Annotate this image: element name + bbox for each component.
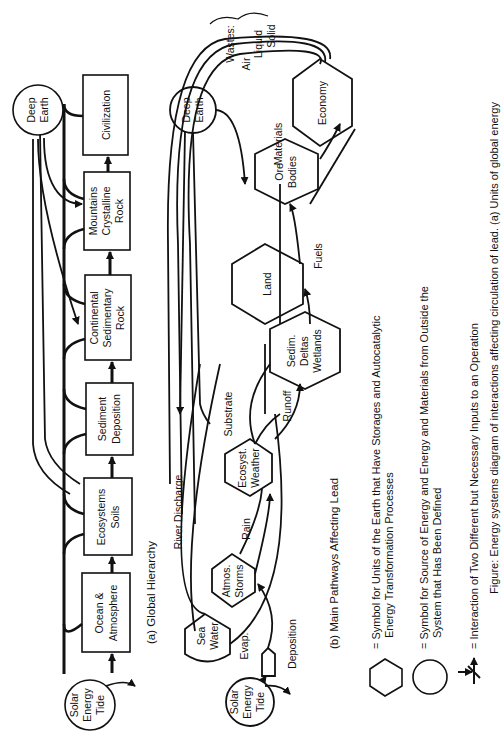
- label-box-ocean: Ocean &: [93, 593, 105, 634]
- label-box-civilization: Civilization: [100, 90, 112, 140]
- legend: = Symbol for Units of the Earth that Hav…: [370, 286, 480, 696]
- label-sea-water: Sea: [195, 627, 207, 646]
- svg-text:Storms: Storms: [233, 564, 245, 597]
- svg-text:Earth: Earth: [193, 97, 205, 122]
- legend-circle-icon: [413, 660, 447, 694]
- label-fuels: Fuels: [312, 243, 324, 269]
- box-ocean-atmosphere: [82, 573, 130, 652]
- legend-hexagon-text: = Symbol for Units of the Earth that Hav…: [370, 315, 382, 649]
- svg-text:Energy Transformation Process: Energy Transformation Processes: [383, 472, 395, 638]
- panel-a-title: (a) Global Hierarchy: [145, 541, 157, 644]
- legend-hexagon-icon: [370, 659, 402, 696]
- svg-text:System that Has Been Defined: System that Has Been Defined: [431, 488, 443, 638]
- label-liquid: Liquid: [252, 30, 264, 58]
- svg-text:Rock: Rock: [113, 198, 125, 223]
- label-sedim: Sedim.: [285, 335, 297, 368]
- svg-text:Weather: Weather: [249, 448, 261, 488]
- svg-text:Earth: Earth: [38, 97, 50, 122]
- svg-text:Crystalline: Crystalline: [100, 186, 112, 235]
- svg-text:Wetlands: Wetlands: [311, 329, 323, 373]
- box-ecosystems-soils: [84, 478, 132, 555]
- diagram-svg: Solar Energy Tide Deep Earth Ocean & Atm…: [0, 0, 501, 744]
- label-deep-earth-b: Deep: [180, 97, 192, 122]
- svg-text:Soils: Soils: [109, 506, 121, 529]
- label-solar-b: Solar: [228, 689, 240, 714]
- svg-text:Water: Water: [208, 622, 220, 650]
- label-materials: Materials: [272, 123, 284, 166]
- panel-b-title: (b) Main Pathways Affecting Lead: [328, 478, 340, 649]
- label-box-continental: Continental: [88, 291, 100, 344]
- svg-text:Tide: Tide: [94, 695, 106, 715]
- label-economy: Economy: [316, 80, 328, 125]
- legend-interaction-text: = Interaction of Two Different but Neces…: [468, 323, 480, 649]
- label-box-sediment: Sediment: [96, 397, 108, 441]
- figure-canvas: Solar Energy Tide Deep Earth Ocean & Atm…: [0, 0, 501, 744]
- svg-text:Deposition: Deposition: [110, 394, 122, 444]
- label-air: Air: [240, 57, 252, 70]
- label-solar: Solar: [68, 692, 80, 717]
- label-rain: Rain: [240, 518, 252, 540]
- svg-text:Deltas: Deltas: [298, 336, 310, 366]
- svg-text:Energy: Energy: [81, 688, 93, 722]
- label-land: Land: [261, 272, 273, 296]
- label-box-ecosystems: Ecosystems: [95, 489, 107, 546]
- svg-text:Atmosphere: Atmosphere: [107, 585, 119, 642]
- label-evap: Evap.: [238, 633, 250, 660]
- label-river-discharge: River Discharge: [172, 475, 184, 550]
- label-ecosyst-weather: Ecosyst.: [236, 448, 248, 488]
- svg-text:Sedimentary: Sedimentary: [101, 288, 113, 348]
- figure-caption: Figure: Energy systems diagram of intera…: [488, 102, 500, 594]
- label-runoff: Runoff: [281, 391, 293, 422]
- label-atmos-storms: Atmos.: [220, 565, 232, 598]
- label-deep-earth: Deep: [25, 97, 37, 122]
- legend-interaction-icon: [458, 658, 480, 684]
- label-box-mountains: Mountains: [87, 187, 99, 235]
- legend-circle-text: = Symbol for Source of Energy and Energy…: [418, 286, 430, 649]
- label-wastes: Wastes:: [224, 25, 236, 63]
- label-ore-bodies: Ore: [273, 163, 285, 181]
- label-substrate: Substrate: [222, 391, 234, 436]
- label-deposition: Deposition: [286, 619, 298, 669]
- svg-text:Tide: Tide: [254, 692, 266, 712]
- svg-text:Energy: Energy: [241, 685, 253, 719]
- svg-text:Rock: Rock: [114, 305, 126, 330]
- label-solid: Solid: [265, 24, 277, 48]
- interaction-symbol-evap: [262, 648, 275, 676]
- svg-text:Bodies: Bodies: [286, 156, 298, 188]
